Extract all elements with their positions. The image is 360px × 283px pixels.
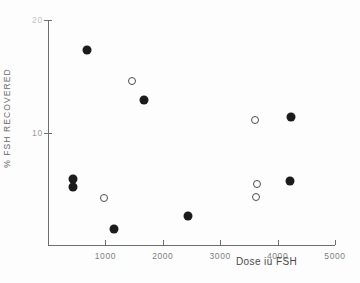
data-point-filled-circles-1 (139, 95, 148, 104)
x-axis-line (48, 245, 335, 246)
data-point-filled-circles-5 (184, 211, 193, 220)
plot-area: 10002000300040005000 2010 (48, 20, 334, 245)
x-tick-label-5000: 5000 (324, 251, 345, 261)
x-tick-1000 (105, 240, 106, 245)
y-axis-title: % FSH RECOVERED (2, 68, 12, 168)
x-axis-title: Dose iu FSH (236, 256, 297, 267)
data-point-open-circles-2 (251, 116, 259, 124)
data-point-filled-circles-7 (285, 176, 294, 185)
data-point-filled-circles-6 (286, 112, 295, 121)
data-point-filled-circles-0 (83, 46, 92, 55)
y-tick-label-20: 20 (32, 15, 43, 25)
x-tick-label-3000: 3000 (210, 251, 231, 261)
x-tick-3000 (220, 240, 221, 245)
x-tick-4000 (278, 240, 279, 245)
data-point-open-circles-3 (253, 180, 261, 188)
x-tick-2000 (163, 240, 164, 245)
y-tick-10 (44, 133, 52, 134)
data-point-filled-circles-3 (68, 182, 77, 191)
data-point-open-circles-1 (100, 194, 108, 202)
x-tick-5000 (335, 240, 336, 245)
y-tick-label-10: 10 (32, 128, 43, 138)
data-point-filled-circles-4 (110, 225, 119, 234)
data-point-open-circles-0 (128, 77, 136, 85)
x-tick-label-2000: 2000 (152, 251, 173, 261)
data-point-open-circles-4 (252, 193, 260, 201)
y-tick-20 (44, 20, 52, 21)
scatter-plot-figure: 10002000300040005000 2010 Dose iu FSH % … (0, 0, 360, 283)
x-tick-label-1000: 1000 (95, 251, 116, 261)
